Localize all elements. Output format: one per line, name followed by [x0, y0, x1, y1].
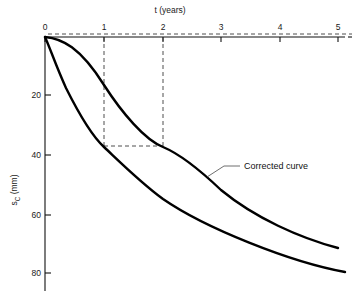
- construction-lines-group: [48, 34, 352, 146]
- x-tick-label-5: 5: [336, 22, 341, 32]
- x-tick-label-4: 4: [278, 22, 283, 32]
- curve-measured: [45, 37, 345, 272]
- x-tick-label-3: 3: [219, 22, 224, 32]
- y-axis-title-unit: (mm): [9, 174, 19, 196]
- annotation-leader-line: [207, 166, 240, 177]
- y-tick-label-40: 40: [32, 150, 42, 160]
- x-tick-label-0: 0: [43, 22, 48, 32]
- settlement-time-chart: 0 1 2 3 4 5 t (years) 20 40 60 80 sC (mm…: [0, 0, 359, 299]
- y-tick-label-60: 60: [32, 210, 42, 220]
- x-tick-label-2: 2: [161, 22, 166, 32]
- annotation-label-corrected-curve: Corrected curve: [244, 161, 308, 171]
- chart-canvas: 0 1 2 3 4 5 t (years) 20 40 60 80 sC (mm…: [0, 0, 359, 299]
- y-axis-title: sC (mm): [9, 174, 21, 205]
- x-tick-label-1: 1: [102, 22, 107, 32]
- curves-group: [45, 37, 345, 272]
- corrected-curve-annotation: Corrected curve: [207, 161, 308, 177]
- y-tick-label-20: 20: [32, 90, 42, 100]
- y-tick-label-80: 80: [32, 268, 42, 278]
- y-axis-group: 20 40 60 80 sC (mm): [9, 37, 51, 291]
- x-axis-title: t (years): [154, 5, 185, 15]
- x-axis-group: 0 1 2 3 4 5 t (years): [43, 5, 355, 42]
- svg-text:sC (mm): sC (mm): [9, 174, 21, 205]
